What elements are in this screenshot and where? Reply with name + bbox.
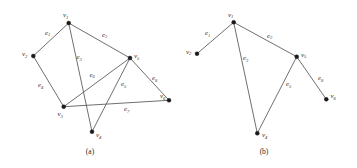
graph-figure: e1e2e3e4e5e6e7e8v1v2v3v4v5v6(a)e1e2e3e5e… <box>0 0 357 168</box>
vertex-label-v4: v4 <box>262 131 268 140</box>
panel-b: e1e2e3e5e8v1v2v4v5v6(b) <box>186 11 337 157</box>
edge-label-e4: e4 <box>38 81 44 90</box>
vertex-dot-v1 <box>232 20 236 24</box>
edge-e1 <box>197 22 234 53</box>
vertex-dot-v5 <box>128 56 132 60</box>
vertex-label-v6: v6 <box>331 92 337 101</box>
edge-e3 <box>234 22 258 133</box>
edge-e5 <box>257 57 296 134</box>
edge-label-e1: e1 <box>205 29 210 38</box>
vertex-label-v3: v3 <box>58 110 64 119</box>
edge-label-e5: e5 <box>286 80 292 89</box>
vertex-label-v4: v4 <box>96 131 102 140</box>
edge-label-e7: e7 <box>124 105 130 114</box>
edge-e5 <box>92 58 130 132</box>
panel-caption-panel-a: (a) <box>86 147 95 156</box>
vertex-label-v2: v2 <box>186 48 192 57</box>
vertex-dot-v6 <box>324 97 328 101</box>
edge-label-e5: e5 <box>121 80 127 89</box>
graph-svg: e1e2e3e4e5e6e7e8v1v2v3v4v5v6(a)e1e2e3e5e… <box>0 0 357 168</box>
edge-e7 <box>64 100 169 106</box>
vertex-dot-v3 <box>62 105 66 109</box>
edge-label-e2: e2 <box>267 32 273 41</box>
edge-label-e3: e3 <box>77 53 83 62</box>
vertex-dot-v1 <box>67 21 71 25</box>
edge-label-e2: e2 <box>102 31 108 40</box>
vertex-label-v2: v2 <box>22 50 28 59</box>
vertex-label-v6: v6 <box>160 92 166 101</box>
edge-label-e1: e1 <box>45 29 50 38</box>
edge-e1 <box>33 23 68 56</box>
vertex-label-v5: v5 <box>301 51 307 60</box>
vertex-dot-v4 <box>90 130 94 134</box>
vertex-label-v5: v5 <box>134 52 140 61</box>
panel-caption-panel-b: (b) <box>260 147 269 156</box>
edge-label-e3: e3 <box>243 54 249 63</box>
edge-label-e8: e8 <box>318 74 324 83</box>
vertex-label-v1: v1 <box>228 11 233 20</box>
edge-e2 <box>234 22 297 56</box>
vertex-dot-v2 <box>31 54 35 58</box>
edge-label-e8: e8 <box>152 74 158 83</box>
vertex-dot-v5 <box>295 55 299 59</box>
vertex-dot-v2 <box>195 52 199 56</box>
edge-label-e6: e6 <box>90 71 96 80</box>
vertex-dot-v6 <box>167 98 171 102</box>
edge-e3 <box>69 23 92 132</box>
vertex-dot-v4 <box>255 131 259 135</box>
edge-e8 <box>130 58 169 100</box>
panel-a: e1e2e3e4e5e6e7e8v1v2v3v4v5v6(a) <box>22 11 171 156</box>
vertex-label-v1: v1 <box>63 11 68 20</box>
